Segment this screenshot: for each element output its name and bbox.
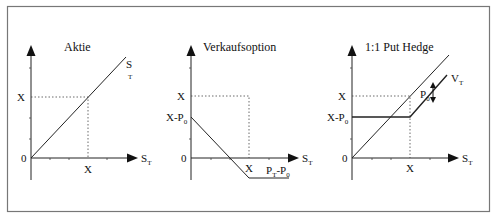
y-axis-arrow-icon [27, 45, 36, 56]
x-label-strike: X [406, 162, 414, 174]
curve-label: VT [451, 72, 464, 87]
x-label-strike: X [245, 162, 253, 174]
curve-label: S [126, 58, 132, 70]
panel-aktie: Aktie X 0 X ST S T [17, 40, 152, 180]
x-label-strike: X [84, 163, 92, 175]
x-axis-arrow-icon [288, 154, 299, 163]
x-axis-label: ST [302, 152, 313, 167]
x-axis-label: ST [462, 152, 473, 167]
panel-title: Verkaufsoption [203, 40, 276, 54]
curve-label: PT-P0 [266, 164, 290, 179]
y-label-origin: 0 [342, 152, 348, 164]
panel-put-hedge: 1:1 Put Hedge P0 X X-P0 0 X ST VT [327, 40, 473, 180]
y-label-strike-minus-premium: X-P0 [166, 111, 188, 126]
curve-label-sub: T [128, 73, 133, 81]
y-label-strike: X [338, 90, 346, 102]
x-axis-arrow-icon [448, 154, 459, 163]
x-axis-arrow-icon [127, 154, 138, 163]
y-label-strike-minus-premium: X-P0 [327, 111, 349, 126]
panel-title: Aktie [64, 40, 91, 54]
y-label-strike: X [177, 90, 185, 102]
y-axis-arrow-icon [348, 45, 357, 56]
panel-verkaufsoption: Verkaufsoption X X-P0 0 X ST PT-P0 [166, 40, 313, 180]
y-label-origin: 0 [181, 152, 187, 164]
arrow-up-icon [430, 82, 436, 88]
stock-payoff-line [352, 55, 449, 158]
y-label-origin: 0 [21, 152, 27, 164]
y-label-strike: X [17, 91, 25, 103]
payoff-diagram: Aktie X 0 X ST S T Verkaufsoption [0, 0, 493, 220]
stock-payoff-line [31, 57, 126, 158]
x-axis-label: ST [141, 152, 152, 167]
y-axis-arrow-icon [187, 45, 196, 56]
put-payoff-line [191, 117, 289, 178]
strike-guide [191, 96, 249, 158]
arrow-down-icon [430, 97, 436, 103]
panel-title: 1:1 Put Hedge [365, 40, 434, 54]
